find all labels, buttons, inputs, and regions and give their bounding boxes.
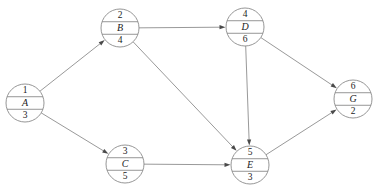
node-b-bottom-number: 4 [118,35,123,45]
arrowhead-icon [224,163,230,167]
node-d-bottom-number: 6 [243,34,248,44]
node-e-bottom-number: 3 [248,172,253,182]
node-g-top-number: 6 [351,81,356,91]
node-b[interactable]: 2B4 [101,9,139,47]
edge-c-to-e [144,163,231,167]
edge-a-to-c [41,113,108,154]
diagram-canvas: 1A32B43C54D65E36G2 [0,0,380,194]
node-g-letter: G [349,93,356,104]
node-d[interactable]: 4D6 [226,8,264,46]
edge-d-to-g [261,38,337,89]
node-c[interactable]: 3C5 [106,145,144,183]
node-c-top-number: 3 [123,146,128,156]
node-b-top-number: 2 [118,10,123,20]
node-a-bottom-number: 3 [23,110,28,120]
node-a-letter: A [21,97,29,108]
network-diagram: 1A32B43C54D65E36G2 [0,0,380,194]
edge-e-to-g [266,110,337,155]
node-g[interactable]: 6G2 [334,80,372,118]
node-a[interactable]: 1A3 [6,84,44,122]
node-a-top-number: 1 [23,85,28,95]
node-e-letter: E [246,159,253,170]
node-g-bottom-number: 2 [351,106,356,116]
edge-b-to-e [133,42,237,151]
node-d-top-number: 4 [243,9,248,19]
node-e[interactable]: 5E3 [231,146,269,184]
node-b-letter: B [117,22,123,33]
edges-layer [40,25,337,167]
node-d-letter: D [240,21,249,32]
edge-d-to-e [246,46,251,146]
arrowhead-icon [219,25,225,29]
arrowhead-icon [330,110,336,115]
edge-b-to-d [139,25,226,29]
arrowhead-icon [331,83,337,88]
arrowhead-icon [102,149,108,154]
arrowhead-icon [247,139,251,145]
edge-a-to-b [40,40,105,91]
node-c-bottom-number: 5 [123,171,128,181]
nodes-layer: 1A32B43C54D65E36G2 [6,8,372,184]
node-e-top-number: 5 [248,147,253,157]
node-c-letter: C [122,158,129,169]
